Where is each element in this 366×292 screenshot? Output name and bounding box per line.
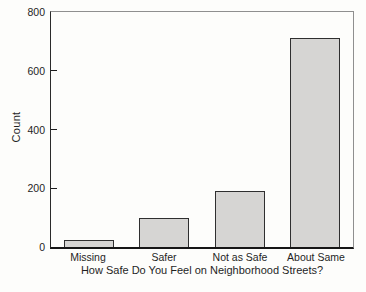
y-tick-label-0: 0 — [0, 241, 45, 253]
bar-series — [51, 12, 353, 247]
x-tick-label-not-as-safe: Not as Safe — [202, 251, 278, 263]
x-axis-title: How Safe Do You Feel on Neighborhood Str… — [50, 264, 354, 277]
y-tick-label-200: 200 — [0, 182, 45, 194]
x-tick-label-missing: Missing — [50, 251, 126, 263]
bar-chart-figure: Count 0200400600800 MissingSaferNot as S… — [0, 0, 366, 292]
y-tick-label-800: 800 — [0, 6, 45, 18]
bar-safer — [139, 218, 189, 247]
bar-slot — [278, 12, 354, 247]
bar-slot — [127, 12, 203, 247]
bar-missing — [64, 240, 114, 247]
bar-about-same — [290, 38, 340, 247]
bar-slot — [51, 12, 127, 247]
x-tick-label-safer: Safer — [126, 251, 202, 263]
bar-not-as-safe — [215, 191, 265, 247]
y-tick-label-600: 600 — [0, 65, 45, 77]
plot-area — [50, 11, 354, 249]
x-tick-label-about-same: About Same — [278, 251, 354, 263]
bar-slot — [202, 12, 278, 247]
x-tick-labels: MissingSaferNot as SafeAbout Same — [50, 251, 354, 263]
y-tick-label-400: 400 — [0, 124, 45, 136]
